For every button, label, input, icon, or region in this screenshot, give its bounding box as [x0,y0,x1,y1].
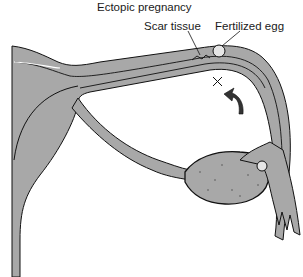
title-label: Ectopic pregnancy [97,2,192,14]
ovarian-ligament [72,98,190,180]
scar-tissue-label: Scar tissue [144,21,201,33]
fertilized-egg-leader [222,31,240,46]
released-egg [257,161,267,171]
fertilized-egg-label: Fertilized egg [215,21,284,33]
fertilized-egg [213,45,225,57]
curved-arrow-icon [224,88,243,114]
x-mark-icon [213,77,222,86]
ectopic-pregnancy-diagram [0,0,303,277]
